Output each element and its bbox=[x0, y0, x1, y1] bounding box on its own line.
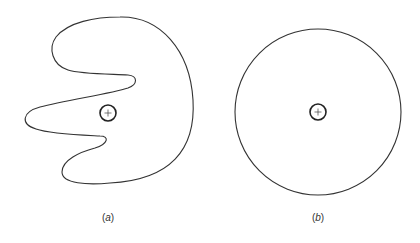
blob-outline bbox=[25, 17, 193, 184]
panel-a: (a) bbox=[25, 17, 193, 223]
panel-b-label: (b) bbox=[312, 212, 324, 223]
panel-b: (b) bbox=[235, 29, 401, 223]
figure-canvas: (a) (b) bbox=[0, 0, 420, 243]
panel-a-label: (a) bbox=[102, 212, 114, 223]
